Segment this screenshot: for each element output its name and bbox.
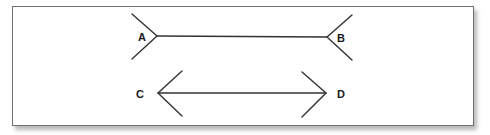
arrowhead-d-icon (302, 72, 326, 117)
label-b: B (337, 32, 345, 44)
line-ab: A B (132, 14, 352, 60)
label-c: C (136, 88, 144, 100)
label-d: D (337, 88, 345, 100)
line-cd: C D (136, 71, 345, 117)
line-ab-shaft (157, 36, 327, 37)
label-a: A (138, 31, 146, 43)
muller-lyer-diagram: A B C D (0, 0, 490, 135)
